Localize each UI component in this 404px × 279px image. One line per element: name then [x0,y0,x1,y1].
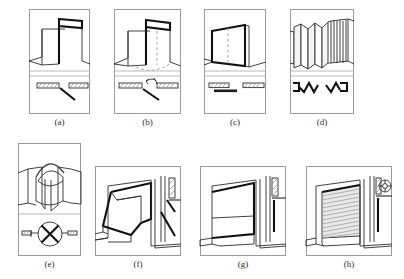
panel-sliding-door: (c) [204,9,266,114]
drawing-folding-accordion-door [290,9,354,114]
panel-single-swing-door: (a) [29,9,90,114]
hinge-arm [167,200,175,212]
section-detail [266,176,286,242]
panel-caption: (e) [18,259,81,269]
panel-caption: (c) [204,117,266,127]
drawing-rolling-shutter-door [306,166,392,256]
folding-symbol-right [326,83,347,92]
drawing-double-acting-swing-door [114,9,181,114]
leaf-section-line [161,212,175,236]
leaf-front-face [103,192,141,235]
panel-overhead-lifting-door: (g) [200,166,286,256]
panel-caption: (h) [306,259,392,269]
leaf-top-edge [111,183,151,223]
wall-jamb-left [37,83,59,88]
section-detail [370,176,392,242]
panel-revolving-door: (e) [18,143,81,256]
panel-caption: (f) [95,259,181,269]
lifting-leaf [212,183,254,238]
wall-jamb-left [119,83,142,88]
leaf-mid-rail [212,216,254,218]
door-leaf-line [60,88,75,100]
panel-caption: (g) [200,259,286,269]
panel-caption: (a) [29,117,90,127]
panel-double-acting-swing-door: (b) [114,9,181,114]
wall-jamb-right [243,83,264,88]
panel-rolling-shutter-door: (h) [306,166,392,256]
drawing-single-swing-door [29,9,90,114]
drawing-overhead-lifting-door [200,166,286,256]
drawing-revolving-door [18,143,81,256]
drawing-sliding-door [204,9,266,114]
panel-caption: (b) [114,117,181,127]
figure-sheet: (a) (b) [0,0,404,279]
drum-top-arc [36,164,64,177]
revolving-plan-symbol [22,222,77,246]
wall-jamb-right [69,83,88,88]
sliding-leaf-symbol [214,90,237,93]
wall-jamb-left [209,83,229,88]
panel-caption: (d) [290,117,354,127]
roll-drum-icon [379,180,391,192]
panel-folding-accordion-door: (d) [290,9,354,114]
section-detail [161,176,181,242]
folding-symbol-left [293,83,318,92]
wall-jamb-right [157,83,178,88]
drawing-awning-tilt-up-door [95,166,181,256]
door-leaf-line [143,89,159,100]
panel-awning-tilt-up-door: (f) [95,166,181,256]
